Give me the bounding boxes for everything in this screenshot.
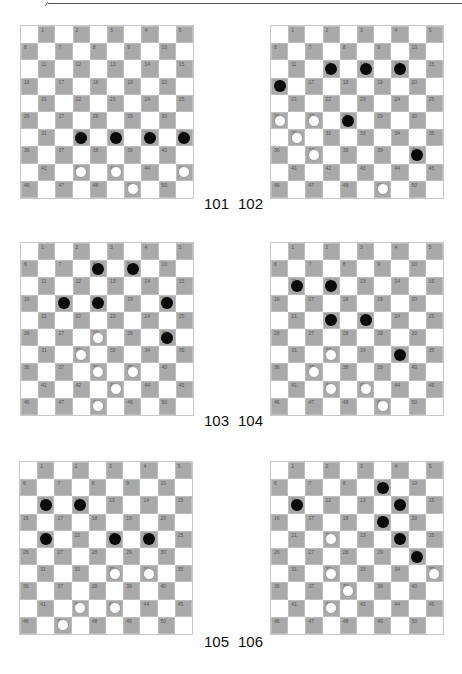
square-37: 37: [55, 363, 72, 380]
light-square: [426, 43, 443, 60]
square-number: 21: [41, 314, 47, 319]
white-piece-icon: [178, 166, 190, 178]
light-square: [391, 479, 408, 496]
square-47: 47: [305, 398, 322, 415]
white-piece-icon: [74, 602, 86, 614]
light-square: [323, 363, 340, 380]
square-number: 16: [274, 297, 280, 302]
white-piece-icon: [92, 400, 104, 412]
square-number: 21: [291, 314, 297, 319]
square-33: 33: [357, 129, 374, 146]
light-square: [90, 277, 107, 294]
light-square: [409, 346, 426, 363]
light-square: [357, 617, 374, 634]
square-number: 40: [412, 584, 418, 589]
square-5: 5: [426, 243, 443, 260]
light-square: [374, 26, 391, 43]
light-square: [288, 479, 305, 496]
square-22: 22: [323, 531, 340, 548]
square-36: 36: [21, 146, 38, 163]
square-number: 38: [343, 365, 349, 370]
black-piece-icon: [325, 314, 337, 326]
square-number: 49: [127, 400, 133, 405]
square-number: 32: [326, 131, 332, 136]
light-square: [124, 164, 141, 181]
light-square: [123, 496, 140, 513]
square-36: 36: [271, 582, 288, 599]
light-square: [374, 346, 391, 363]
light-square: [158, 600, 175, 617]
square-25: 25: [426, 312, 443, 329]
square-7: 7: [305, 260, 322, 277]
square-19: 19: [374, 295, 391, 312]
square-24: 24: [391, 312, 408, 329]
light-square: [271, 26, 288, 43]
square-number: 25: [178, 533, 184, 538]
light-square: [409, 95, 426, 112]
black-piece-icon: [161, 332, 173, 344]
square-number: 50: [412, 400, 418, 405]
light-square: [123, 462, 140, 479]
square-3: 3: [107, 243, 124, 260]
light-square: [90, 60, 107, 77]
light-square: [271, 129, 288, 146]
square-34: 34: [141, 346, 158, 363]
light-square: [409, 243, 426, 260]
black-piece-icon: [178, 132, 190, 144]
square-number: 8: [93, 45, 96, 50]
square-number: 45: [179, 383, 185, 388]
white-piece-icon: [308, 149, 320, 161]
square-39: 39: [124, 363, 141, 380]
light-square: [323, 398, 340, 415]
square-24: 24: [391, 95, 408, 112]
light-square: [72, 582, 89, 599]
square-number: 7: [308, 481, 311, 486]
square-number: 26: [274, 550, 280, 555]
light-square: [323, 548, 340, 565]
square-38: 38: [90, 363, 107, 380]
light-square: [426, 548, 443, 565]
square-29: 29: [123, 548, 140, 565]
square-number: 16: [23, 516, 29, 521]
square-number: 30: [162, 114, 168, 119]
light-square: [107, 329, 124, 346]
square-4: 4: [140, 462, 157, 479]
square-31: 31: [288, 346, 305, 363]
square-number: 9: [126, 481, 129, 486]
square-37: 37: [305, 146, 322, 163]
square-number: 14: [394, 279, 400, 284]
square-number: 12: [76, 62, 82, 67]
light-square: [37, 514, 54, 531]
square-number: 35: [178, 567, 184, 572]
light-square: [159, 243, 176, 260]
light-square: [55, 164, 72, 181]
light-square: [38, 398, 55, 415]
square-30: 30: [409, 548, 426, 565]
light-square: [55, 312, 72, 329]
square-18: 18: [90, 295, 107, 312]
square-10: 10: [159, 260, 176, 277]
square-8: 8: [340, 43, 357, 60]
square-3: 3: [106, 462, 123, 479]
square-number: 29: [126, 550, 132, 555]
square-29: 29: [374, 329, 391, 346]
square-number: 46: [274, 619, 280, 624]
light-square: [323, 582, 340, 599]
square-38: 38: [90, 146, 107, 163]
square-number: 44: [144, 166, 150, 171]
light-square: [323, 146, 340, 163]
white-piece-icon: [325, 383, 337, 395]
square-9: 9: [374, 43, 391, 60]
square-number: 47: [308, 183, 314, 188]
square-number: 50: [412, 619, 418, 624]
square-number: 7: [308, 45, 311, 50]
square-number: 2: [76, 245, 79, 250]
light-square: [90, 129, 107, 146]
light-square: [55, 129, 72, 146]
square-number: 28: [93, 114, 99, 119]
square-number: 13: [109, 498, 115, 503]
square-number: 47: [58, 183, 64, 188]
square-number: 19: [127, 80, 133, 85]
square-number: 33: [360, 348, 366, 353]
square-12: 12: [323, 496, 340, 513]
